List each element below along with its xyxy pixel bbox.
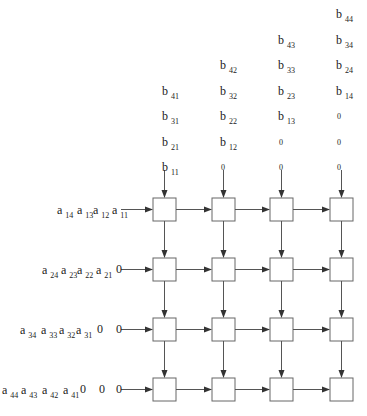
- a-input-a21: a21: [96, 264, 112, 278]
- a-input-a11: a11: [112, 204, 128, 218]
- a-input-a22: a22: [77, 264, 93, 278]
- b-input-b33: b33: [278, 59, 295, 73]
- a-input-a13: a13: [77, 204, 93, 218]
- b-input-b32: b32: [220, 85, 237, 99]
- b-input-b42: b42: [220, 59, 237, 73]
- a-input-a14: a14: [57, 204, 73, 218]
- b-input-zero-col3-2: 0: [279, 139, 283, 147]
- a-input-zero-row4-5: 0: [80, 383, 86, 395]
- b-input-b11: b11: [162, 161, 179, 175]
- processing-element-2-2: [212, 258, 235, 281]
- processing-element-1-1: [153, 198, 176, 221]
- b-input-b12: b12: [220, 136, 237, 150]
- a-input-a33: a33: [41, 324, 57, 338]
- b-input-b24: b24: [336, 59, 353, 73]
- processing-element-4-4: [330, 378, 353, 401]
- b-input-zero-col3-1: 0: [279, 164, 283, 172]
- processing-element-1-4: [330, 198, 353, 221]
- a-input-a44: a44: [2, 384, 18, 398]
- b-input-zero-col4-1: 0: [337, 164, 341, 172]
- b-input-b41: b41: [162, 85, 179, 99]
- a-input-zero-row3-6: 0: [116, 323, 122, 335]
- a-input-a24: a24: [42, 264, 58, 278]
- processing-element-1-2: [212, 198, 235, 221]
- processing-element-3-4: [330, 318, 353, 341]
- b-input-zero-col4-3: 0: [337, 113, 341, 121]
- processing-element-3-2: [212, 318, 235, 341]
- b-input-b14: b14: [336, 85, 353, 99]
- a-input-zero-row4-7: 0: [116, 383, 122, 395]
- a-input-a23: a23: [61, 264, 77, 278]
- a-input-a31: a31: [76, 324, 92, 338]
- processing-element-3-3: [270, 318, 293, 341]
- processing-element-2-4: [330, 258, 353, 281]
- processing-element-1-3: [270, 198, 293, 221]
- processing-element-4-2: [212, 378, 235, 401]
- b-input-b34: b34: [336, 34, 353, 48]
- processing-element-4-3: [270, 378, 293, 401]
- a-input-zero-row2-5: 0: [116, 263, 122, 275]
- b-input-b44: b44: [336, 8, 353, 22]
- processing-element-4-1: [153, 378, 176, 401]
- a-input-a32: a32: [59, 324, 75, 338]
- b-input-b21: b21: [162, 136, 179, 150]
- processing-element-2-1: [153, 258, 176, 281]
- a-input-a43: a43: [21, 384, 37, 398]
- b-input-zero-col2-1: 0: [221, 164, 225, 172]
- processing-element-3-1: [153, 318, 176, 341]
- b-input-b43: b43: [278, 34, 295, 48]
- b-input-b22: b22: [220, 110, 237, 124]
- a-input-a41: a41: [63, 384, 79, 398]
- systolic-array-grid: [0, 0, 367, 416]
- b-input-b13: b13: [278, 110, 295, 124]
- a-input-a42: a42: [42, 384, 58, 398]
- b-input-b31: b31: [162, 110, 179, 124]
- a-input-a34: a34: [20, 324, 36, 338]
- a-input-zero-row4-6: 0: [99, 383, 105, 395]
- a-input-a12: a12: [93, 204, 109, 218]
- a-input-zero-row3-5: 0: [97, 323, 103, 335]
- b-input-zero-col4-2: 0: [337, 139, 341, 147]
- processing-element-2-3: [270, 258, 293, 281]
- b-input-b23: b23: [278, 85, 295, 99]
